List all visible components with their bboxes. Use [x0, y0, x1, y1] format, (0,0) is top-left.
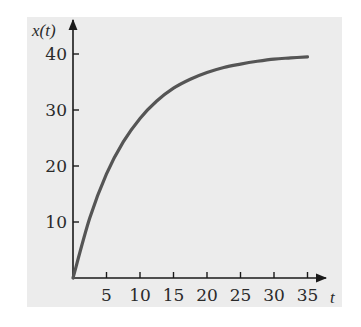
- x-tick-label: 10: [129, 285, 151, 305]
- x-ticks: 5101520253035: [101, 272, 318, 305]
- x-tick-label: 15: [163, 285, 185, 305]
- y-tick-label: 20: [45, 156, 67, 176]
- y-tick-label: 40: [45, 44, 67, 64]
- x-tick-label: 30: [263, 285, 285, 305]
- x-tick-label: 5: [101, 285, 112, 305]
- y-axis-label: x(t): [31, 21, 56, 40]
- x-tick-label: 25: [230, 285, 252, 305]
- x-axis-label: t: [330, 288, 336, 307]
- x-tick-label: 35: [297, 285, 319, 305]
- data-curve: [73, 57, 308, 278]
- line-chart: 10203040 5101520253035 x(t) t: [0, 0, 361, 327]
- x-tick-label: 20: [196, 285, 218, 305]
- y-tick-label: 10: [45, 212, 67, 232]
- y-tick-label: 30: [45, 100, 67, 120]
- y-ticks: 10203040: [45, 44, 79, 232]
